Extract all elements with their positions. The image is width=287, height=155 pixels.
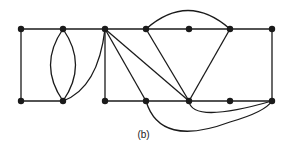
graph-node (143, 98, 149, 104)
graph-edge (105, 29, 146, 101)
graph-node (143, 26, 149, 32)
graph-edge (146, 29, 189, 101)
graph-node (186, 26, 192, 32)
graph-node (18, 98, 24, 104)
graph-node (60, 98, 66, 104)
figure-caption: (b) (0, 129, 287, 140)
graph-edge (63, 29, 76, 101)
graph-node (269, 26, 275, 32)
graph-node (186, 98, 192, 104)
graph-node (18, 26, 24, 32)
graph-node (227, 26, 233, 32)
graph-node (102, 26, 108, 32)
graph-node (60, 26, 66, 32)
graph-edge (105, 29, 189, 101)
graph-edge (51, 29, 64, 101)
graph-node (269, 98, 275, 104)
graph-node (227, 98, 233, 104)
graph-figure: (b) (0, 0, 287, 155)
graph-edge (189, 29, 230, 101)
graph-node (102, 98, 108, 104)
